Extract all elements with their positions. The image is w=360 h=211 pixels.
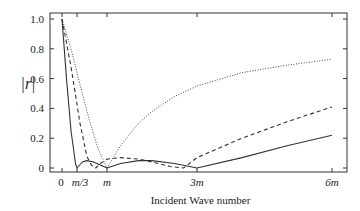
y-tick-label: 0.2 bbox=[30, 132, 44, 144]
x-tick-label: m bbox=[103, 176, 111, 188]
x-tick-label: 3m bbox=[189, 176, 204, 188]
x-axis-title: Incident Wave number bbox=[151, 194, 251, 206]
chart-canvas: 00.20.40.60.81.00m/3m3m6mIncident Wave n… bbox=[0, 0, 360, 211]
y-tick-label: 0.4 bbox=[30, 102, 44, 114]
y-tick-label: 0 bbox=[39, 162, 45, 174]
x-tick-label: 6m bbox=[325, 176, 339, 188]
y-axis: 00.20.40.60.81.0 bbox=[30, 13, 347, 174]
series-dotted bbox=[62, 19, 332, 168]
x-tick-label: m/3 bbox=[72, 176, 89, 188]
x-axis: 0m/3m3m6m bbox=[58, 13, 339, 188]
series-solid bbox=[62, 19, 332, 168]
x-tick-label: 0 bbox=[58, 176, 64, 188]
plot-frame bbox=[50, 13, 347, 172]
y-axis-title: |r| bbox=[20, 75, 35, 93]
series-dashed bbox=[62, 19, 332, 168]
y-tick-label: 0.8 bbox=[30, 43, 44, 55]
y-tick-label: 1.0 bbox=[30, 13, 44, 25]
